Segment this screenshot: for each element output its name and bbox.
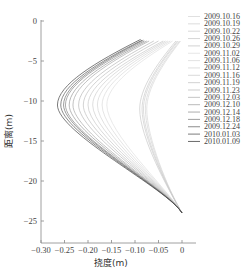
y-tick-label: −5 (28, 56, 37, 66)
series-line (145, 41, 182, 213)
y-tick-label: −15 (24, 136, 37, 146)
y-tick-label: −20 (24, 176, 37, 186)
x-tick-label: −0.05 (149, 245, 169, 255)
y-tick-label: 0 (33, 16, 37, 26)
deflection-chart: 0−5−10−15−20−25 −0.30−0.25−0.20−0.15−0.1… (0, 0, 251, 279)
y-tick-label: −25 (24, 216, 37, 226)
x-tick-label: 0 (180, 245, 184, 255)
x-ticks: −0.30−0.25−0.20−0.15−0.10−0.050 (31, 240, 184, 255)
x-tick-label: −0.25 (55, 245, 75, 255)
x-tick-label: −0.20 (78, 245, 98, 255)
y-tick-label: −10 (24, 96, 37, 106)
x-axis-title: 挠度(m) (94, 257, 128, 268)
series-line (69, 41, 182, 213)
data-curves (57, 39, 182, 213)
x-tick-label: −0.10 (125, 245, 145, 255)
x-tick-label: −0.30 (31, 245, 51, 255)
y-axis-title: 距离(m) (3, 114, 14, 148)
series-line (147, 41, 182, 213)
legend: 2009.10.162009.10.192009.10.222009.10.26… (188, 12, 240, 146)
x-tick-label: −0.15 (102, 245, 122, 255)
legend-label: 2010.01.09 (204, 137, 240, 146)
